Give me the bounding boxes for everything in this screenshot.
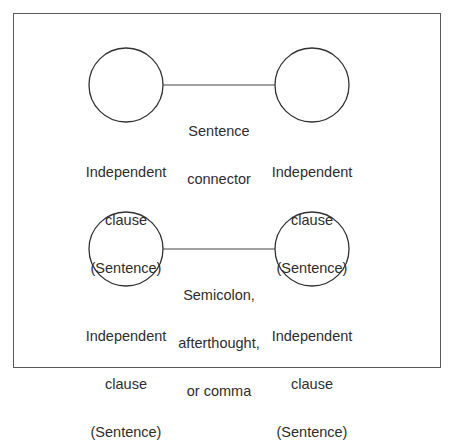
label-line: Independent	[272, 164, 353, 180]
label-line: Sentence	[187, 123, 251, 139]
bottom-connector-label: Semicolon, afterthought, or comma	[178, 255, 259, 415]
top-connector-label: Sentence connector	[187, 91, 251, 203]
top-right-clause-circle	[275, 48, 349, 122]
label-line: (Sentence)	[86, 260, 167, 276]
label-line: Independent	[272, 328, 353, 344]
label-line: clause	[272, 212, 353, 228]
label-line: (Sentence)	[272, 260, 353, 276]
label-line: clause	[86, 212, 167, 228]
label-line: (Sentence)	[272, 424, 353, 440]
label-line: (Sentence)	[86, 424, 167, 440]
label-line: connector	[187, 171, 251, 187]
top-left-clause-circle	[89, 48, 163, 122]
bottom-right-clause-label: Independent clause (Sentence)	[272, 296, 353, 444]
label-line: Semicolon,	[178, 287, 259, 303]
top-left-clause-label: Independent clause (Sentence)	[86, 132, 167, 292]
top-right-clause-label: Independent clause (Sentence)	[272, 132, 353, 292]
label-line: afterthought,	[178, 335, 259, 351]
label-line: Independent	[86, 164, 167, 180]
label-line: Independent	[86, 328, 167, 344]
label-line: clause	[86, 376, 167, 392]
bottom-left-clause-label: Independent clause (Sentence)	[86, 296, 167, 444]
label-line: or comma	[178, 383, 259, 399]
label-line: clause	[272, 376, 353, 392]
